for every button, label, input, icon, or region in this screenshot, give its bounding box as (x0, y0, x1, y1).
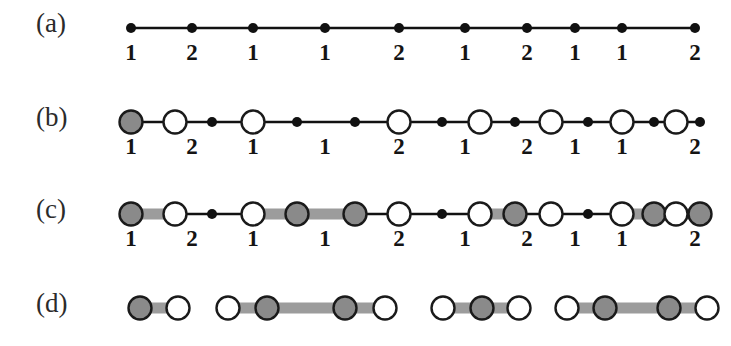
gray-vertex-circle (643, 203, 666, 226)
row-c (120, 203, 712, 226)
small-vertex-dot (207, 117, 217, 127)
gray-vertex-circle (594, 297, 617, 320)
row-tag-a: (a) (36, 8, 66, 39)
row-b (120, 111, 706, 134)
vertex-number-label: 1 (319, 134, 331, 160)
white-vertex-circle (242, 111, 265, 134)
vertex-number-label: 1 (459, 134, 471, 160)
small-vertex-dot (394, 23, 404, 33)
small-vertex-dot (187, 23, 197, 33)
white-vertex-circle (508, 297, 531, 320)
vertex-number-label: 1 (616, 134, 628, 160)
gray-vertex-circle (689, 203, 712, 226)
small-vertex-dot (570, 23, 580, 33)
row-tag-b: (b) (36, 102, 67, 133)
vertex-number-label: 1 (125, 226, 137, 252)
gray-vertex-circle (286, 203, 309, 226)
small-vertex-dot (207, 209, 217, 219)
vertex-number-label: 1 (247, 226, 259, 252)
vertex-number-label: 1 (319, 226, 331, 252)
vertex-number-label: 2 (689, 134, 701, 160)
white-vertex-circle (167, 297, 190, 320)
gray-vertex-circle (120, 111, 143, 134)
vertex-number-label: 2 (186, 40, 198, 66)
white-vertex-circle (374, 297, 397, 320)
small-vertex-dot (460, 23, 470, 33)
small-vertex-dot (437, 117, 447, 127)
small-vertex-dot (437, 209, 447, 219)
vertex-number-label: 2 (186, 226, 198, 252)
vertex-number-label: 1 (459, 40, 471, 66)
small-vertex-dot (350, 117, 360, 127)
small-vertex-dot (690, 23, 700, 33)
white-vertex-circle (164, 203, 187, 226)
vertex-number-label: 1 (569, 226, 581, 252)
vertex-number-label: 2 (521, 40, 533, 66)
vertex-number-label: 2 (689, 226, 701, 252)
white-vertex-circle (665, 111, 688, 134)
row-d (129, 297, 719, 320)
white-vertex-circle (540, 203, 563, 226)
vertex-number-label: 1 (616, 226, 628, 252)
white-vertex-circle (217, 297, 240, 320)
vertex-number-label: 2 (186, 134, 198, 160)
small-vertex-dot (649, 117, 659, 127)
white-vertex-circle (611, 111, 634, 134)
row-tag-c: (c) (36, 194, 66, 225)
white-vertex-circle (665, 203, 688, 226)
vertex-number-label: 1 (569, 134, 581, 160)
vertex-number-label: 1 (569, 40, 581, 66)
vertex-number-label: 1 (319, 40, 331, 66)
white-vertex-circle (242, 203, 265, 226)
row-a (126, 23, 700, 33)
vertex-number-label: 2 (689, 40, 701, 66)
small-vertex-dot (583, 117, 593, 127)
white-vertex-circle (469, 111, 492, 134)
vertex-number-label: 1 (125, 134, 137, 160)
matching-bar (228, 303, 385, 314)
vertex-number-label: 1 (247, 134, 259, 160)
vertex-number-label: 1 (616, 40, 628, 66)
small-vertex-dot (248, 23, 258, 33)
small-vertex-dot (617, 23, 627, 33)
white-vertex-circle (540, 111, 563, 134)
gray-vertex-circle (658, 297, 681, 320)
matching-bar (567, 303, 707, 314)
white-vertex-circle (611, 203, 634, 226)
gray-vertex-circle (504, 203, 527, 226)
vertex-number-label: 2 (393, 40, 405, 66)
small-vertex-dot (292, 117, 302, 127)
vertex-number-label: 2 (521, 226, 533, 252)
white-vertex-circle (432, 297, 455, 320)
small-vertex-dot (510, 117, 520, 127)
white-vertex-circle (388, 203, 411, 226)
small-vertex-dot (695, 117, 705, 127)
figure-panel: (a)1211212112(b)1211212112(c)1211212112(… (0, 0, 731, 346)
gray-vertex-circle (129, 297, 152, 320)
vertex-number-label: 1 (125, 40, 137, 66)
vertex-number-label: 1 (459, 226, 471, 252)
vertex-number-label: 2 (521, 134, 533, 160)
white-vertex-circle (556, 297, 579, 320)
vertex-number-label: 1 (247, 40, 259, 66)
small-vertex-dot (522, 23, 532, 33)
gray-vertex-circle (344, 203, 367, 226)
row-tag-d: (d) (36, 288, 67, 319)
gray-vertex-circle (471, 297, 494, 320)
gray-vertex-circle (256, 297, 279, 320)
small-vertex-dot (320, 23, 330, 33)
white-vertex-circle (388, 111, 411, 134)
white-vertex-circle (696, 297, 719, 320)
vertex-number-label: 2 (393, 226, 405, 252)
white-vertex-circle (469, 203, 492, 226)
gray-vertex-circle (120, 203, 143, 226)
vertex-number-label: 2 (393, 134, 405, 160)
gray-vertex-circle (334, 297, 357, 320)
small-vertex-dot (126, 23, 136, 33)
white-vertex-circle (164, 111, 187, 134)
small-vertex-dot (583, 209, 593, 219)
